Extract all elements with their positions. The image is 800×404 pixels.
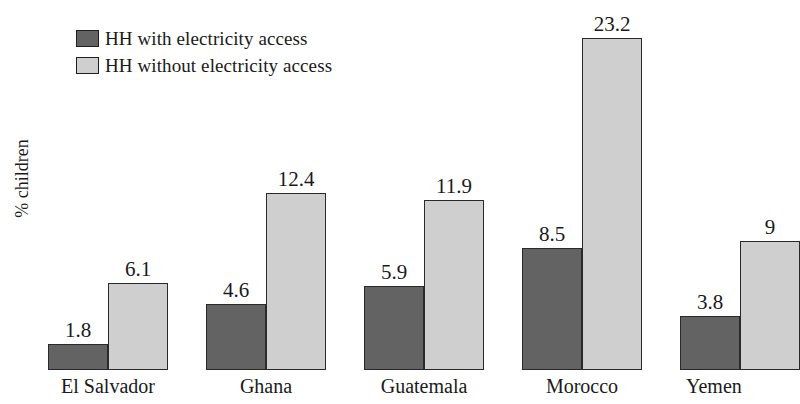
bar-column: 23.2 (582, 38, 642, 370)
x-axis-category-label: Morocco (522, 376, 642, 396)
bar-group: 3.89Yemen (680, 34, 800, 370)
bar-group-bars: 1.86.1 (48, 283, 168, 370)
x-axis-category-label: Yemen (680, 376, 800, 396)
bar-group: 5.911.9Guatemala (364, 34, 484, 370)
plot-area: 1.86.1El Salvador4.612.4Ghana5.911.9Guat… (0, 0, 800, 404)
bar-group: 8.523.2Morocco (522, 34, 642, 370)
bar (206, 304, 266, 370)
x-axis-category-label: Guatemala (364, 376, 484, 396)
bar-group: 4.612.4Ghana (206, 34, 326, 370)
bar (364, 286, 424, 370)
bar-value-label: 8.5 (539, 224, 565, 245)
bar (48, 344, 108, 370)
bar-value-label: 4.6 (223, 280, 249, 301)
bar-group-bars: 5.911.9 (364, 200, 484, 370)
bar-column: 5.9 (364, 286, 424, 370)
x-axis-category-label: Ghana (206, 376, 326, 396)
bar-column: 6.1 (108, 283, 168, 370)
bar (680, 316, 740, 370)
bar-value-label: 23.2 (594, 14, 631, 35)
bar-value-label: 1.8 (65, 320, 91, 341)
bar-column: 9 (740, 241, 800, 370)
bar-column: 8.5 (522, 248, 582, 370)
bar (522, 248, 582, 370)
x-axis-category-label: El Salvador (48, 376, 168, 396)
bar-group: 1.86.1El Salvador (48, 34, 168, 370)
bar-chart: % children HH with electricity access HH… (0, 0, 800, 404)
bar (424, 200, 484, 370)
bar-column: 1.8 (48, 344, 108, 370)
bar (740, 241, 800, 370)
bar-column: 12.4 (266, 193, 326, 370)
bar (266, 193, 326, 370)
bar-value-label: 9 (765, 217, 776, 238)
bar-column: 4.6 (206, 304, 266, 370)
bar-group-bars: 8.523.2 (522, 38, 642, 370)
bar-column: 3.8 (680, 316, 740, 370)
bar-group-bars: 3.89 (680, 241, 800, 370)
bar-value-label: 6.1 (125, 259, 151, 280)
bar-value-label: 11.9 (436, 176, 472, 197)
bar (108, 283, 168, 370)
bar-value-label: 3.8 (697, 292, 723, 313)
bar-column: 11.9 (424, 200, 484, 370)
bar-group-bars: 4.612.4 (206, 193, 326, 370)
bar (582, 38, 642, 370)
bar-value-label: 5.9 (381, 262, 407, 283)
bar-value-label: 12.4 (278, 169, 315, 190)
